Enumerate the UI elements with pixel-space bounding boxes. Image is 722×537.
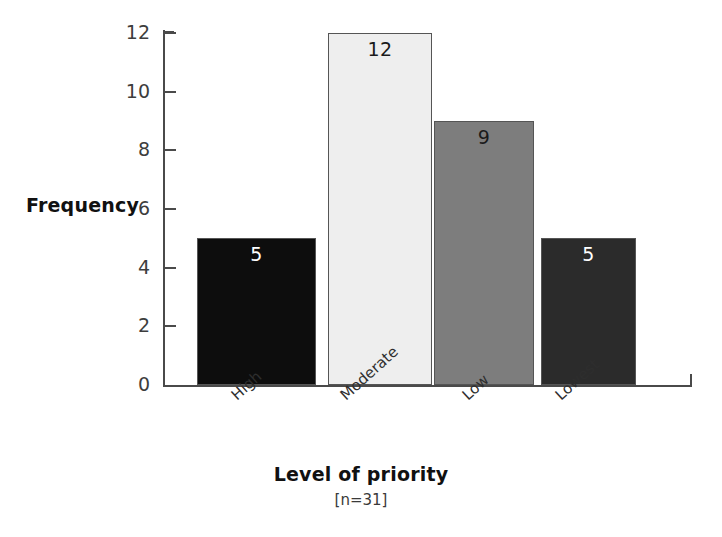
y-axis-tick-label: 12 xyxy=(110,23,150,42)
y-axis-tick xyxy=(165,32,176,34)
y-axis-title: Frequency xyxy=(26,194,139,216)
x-axis-sample-size-note: [n=31] xyxy=(0,491,722,509)
bar-moderate[interactable]: 12 xyxy=(328,33,432,385)
y-axis-tick xyxy=(165,208,176,210)
y-axis-tick xyxy=(165,267,176,269)
y-axis-tick xyxy=(165,149,176,151)
y-axis-tick-label: 2 xyxy=(110,316,150,335)
y-axis-tick-label: 8 xyxy=(110,140,150,159)
y-axis-tick-label: 10 xyxy=(110,82,150,101)
y-axis-tick-label: 0 xyxy=(110,375,150,394)
y-axis-tick-label: 4 xyxy=(110,258,150,277)
bar-value-label: 12 xyxy=(329,40,431,59)
bar-value-label: 5 xyxy=(198,245,315,264)
x-axis-title: Level of priority xyxy=(0,463,722,485)
bar-value-label: 9 xyxy=(435,128,533,147)
bar-chart-figure: 024681012 51295 HighModerateLowLowest Fr… xyxy=(0,0,722,537)
x-axis-end-cap xyxy=(690,374,692,387)
bar-value-label: 5 xyxy=(542,245,635,264)
bar-low[interactable]: 9 xyxy=(434,121,534,385)
y-axis-tick xyxy=(165,325,176,327)
bar-high[interactable]: 5 xyxy=(197,238,316,385)
y-axis-tick xyxy=(165,91,176,93)
